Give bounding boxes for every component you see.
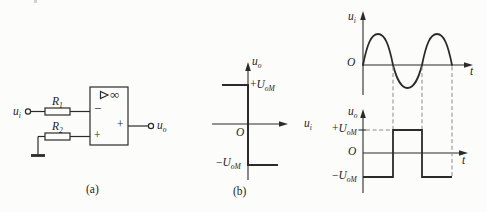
wave-out-lower-level-label: −UoM — [332, 170, 357, 182]
sub: oM — [265, 84, 275, 93]
r2-label: R2 — [52, 121, 63, 133]
sub: oM — [231, 162, 241, 171]
opamp-inverting-input-label: − — [94, 102, 101, 115]
wave-out-x-axis-label: t — [462, 155, 465, 167]
input-sine-curve — [363, 34, 452, 88]
sub: 2 — [59, 126, 63, 135]
wave-in-x-axis-label: t — [470, 66, 473, 78]
transfer-origin-label: O — [236, 127, 244, 139]
wave-out-origin-label: O — [348, 146, 356, 158]
base: R — [52, 95, 59, 107]
wave-in-y-arrow-icon — [360, 11, 366, 20]
output-voltage-label: uo — [157, 120, 167, 132]
opamp-triangle-icon — [101, 92, 109, 99]
comparator-figure: ui R1 R2 − + ∞ + uo (a) uo +UoM O ui −Uo… — [0, 0, 487, 212]
figure-canvas — [0, 0, 487, 212]
transfer-upper-level-label: +UoM — [250, 79, 275, 91]
wave-out-upper-level-label: +UoM — [332, 123, 357, 135]
base: U — [339, 169, 347, 181]
base: R — [52, 120, 59, 132]
opamp-gain-infinity-label: ∞ — [110, 88, 119, 101]
r1-label: R1 — [52, 96, 63, 108]
sub: i — [19, 111, 21, 120]
sub: 1 — [59, 101, 63, 110]
sub: o — [354, 111, 358, 120]
resistor-r1 — [45, 108, 70, 115]
caption-a: (a) — [86, 184, 99, 196]
sub: oM — [347, 128, 357, 137]
resistor-r2 — [45, 133, 70, 140]
sub: i — [354, 16, 356, 25]
input-voltage-label: ui — [13, 106, 21, 118]
opamp-noninverting-input-label: + — [94, 130, 101, 142]
transfer-y-arrow-icon — [245, 62, 251, 71]
opamp-output-sign-label: + — [117, 119, 124, 131]
transfer-x-arrow-icon — [279, 121, 288, 127]
transfer-lower-level-label: −UoM — [216, 157, 241, 169]
page-edge-artifact — [34, 0, 37, 3]
transfer-x-axis-label: ui — [304, 118, 312, 130]
sub: oM — [347, 175, 357, 184]
transfer-y-axis-label: uo — [252, 56, 262, 68]
wave-out-y-arrow-icon — [360, 109, 366, 118]
output-terminal — [148, 123, 153, 128]
sub: i — [310, 123, 312, 132]
wave-in-origin-label: O — [347, 57, 355, 69]
base: U — [257, 78, 265, 90]
wave-in-y-axis-label: ui — [348, 11, 356, 23]
base: U — [339, 122, 347, 134]
sub: o — [163, 125, 167, 134]
transfer-curve — [222, 85, 278, 165]
caption-b: (b) — [233, 186, 246, 198]
base: U — [223, 156, 231, 168]
input-terminal — [25, 109, 30, 114]
wave-out-y-axis-label: uo — [348, 106, 358, 118]
sub: o — [258, 61, 262, 70]
